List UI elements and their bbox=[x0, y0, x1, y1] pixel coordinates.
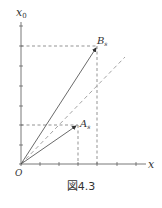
figure-caption: 図4.3 bbox=[67, 180, 96, 193]
y-axis-label: x0 bbox=[16, 6, 27, 20]
spacetime-diagram: x0 x O Bs As 図4.3 bbox=[0, 0, 162, 208]
x-axis-label: x bbox=[148, 158, 155, 171]
origin-label: O bbox=[15, 168, 23, 178]
vector-OB bbox=[21, 48, 96, 164]
vector-OA bbox=[21, 126, 76, 164]
light-cone-line bbox=[21, 57, 125, 164]
point-B-label: Bs bbox=[96, 35, 107, 47]
point-A-label: As bbox=[79, 118, 90, 130]
